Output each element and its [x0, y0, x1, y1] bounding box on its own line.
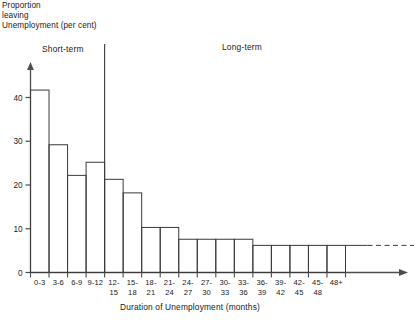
histogram-bar: [49, 145, 68, 273]
y-tick-label: 20: [13, 181, 23, 190]
x-tick-label: 39: [258, 288, 267, 297]
histogram-bar: [68, 175, 87, 272]
x-tick-label: 3-6: [53, 278, 64, 287]
x-tick-label: 36: [239, 288, 248, 297]
histogram-bar: [179, 239, 198, 272]
histogram-bar: [234, 239, 253, 272]
x-tick-label: 36-: [256, 278, 268, 287]
histogram-bar: [327, 245, 346, 272]
x-tick-label: 12-: [108, 278, 120, 287]
x-tick-label: 39-: [275, 278, 287, 287]
y-tick-label: 40: [13, 94, 23, 103]
x-tick-label: 6-9: [71, 278, 82, 287]
x-tick-label: 9-12: [88, 278, 104, 287]
x-tick-label: 45: [295, 288, 304, 297]
x-tick-label: 0-3: [34, 278, 45, 287]
x-tick-label: 24: [165, 288, 174, 297]
x-tick-label: 48+: [330, 278, 344, 287]
x-tick-label: 15: [110, 288, 119, 297]
x-axis-title: Duration of Unemployment (months): [120, 302, 260, 312]
histogram-bar: [216, 239, 235, 272]
x-tick-label: 33: [221, 288, 230, 297]
y-axis-ticks: 010203040: [13, 94, 30, 278]
x-tick-label: 30: [202, 288, 211, 297]
bars: [31, 90, 346, 272]
x-tick-label: 24-: [182, 278, 194, 287]
histogram-bar: [86, 162, 105, 272]
histogram-bar: [308, 245, 327, 272]
x-tick-label: 45-: [312, 278, 324, 287]
y-tick-label: 0: [18, 269, 23, 278]
y-tick-label: 10: [13, 225, 23, 234]
x-tick-label: 21-: [164, 278, 176, 287]
histogram-bar: [31, 90, 50, 272]
x-axis-arrowhead: [399, 269, 408, 276]
x-tick-label: 30-: [219, 278, 231, 287]
x-tick-label: 18-: [145, 278, 157, 287]
x-tick-label: 33-: [238, 278, 250, 287]
histogram-bar: [105, 179, 124, 272]
x-tick-label: 48: [313, 288, 322, 297]
histogram-bar: [253, 245, 272, 272]
x-tick-label: 27-: [201, 278, 213, 287]
unemployment-duration-histogram: Proportion leaving Unemployment (per cen…: [0, 0, 420, 323]
x-tick-label: 21: [147, 288, 156, 297]
x-tick-label: 27: [184, 288, 193, 297]
x-tick-label: 18: [128, 288, 137, 297]
histogram-bar: [142, 227, 161, 272]
plot-area: 0102030400-33-66-99-1212-1515-1818-2121-…: [0, 0, 420, 323]
histogram-bar: [160, 227, 179, 272]
y-axis-arrowhead: [27, 62, 34, 70]
histogram-bar: [197, 239, 216, 272]
axes: [27, 62, 408, 276]
histogram-bar: [123, 193, 142, 273]
histogram-bar: [290, 245, 309, 272]
histogram-bar: [271, 245, 290, 272]
x-axis-ticks: 0-33-66-99-1212-1515-1818-2121-2424-2727…: [31, 273, 346, 297]
x-tick-label: 42: [276, 288, 285, 297]
x-tick-label: 15-: [127, 278, 139, 287]
x-tick-label: 42-: [294, 278, 306, 287]
y-tick-label: 30: [13, 137, 23, 146]
